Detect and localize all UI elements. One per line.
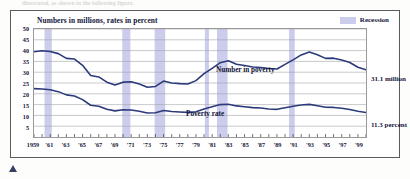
series-line-number-in-poverty [34, 51, 366, 88]
x-tick-label: '83 [225, 141, 233, 148]
plot-area [33, 28, 367, 138]
x-tick-label: 1959 [27, 141, 39, 148]
end-value-poverty-rate: 11.3 percent [371, 121, 407, 129]
x-tick-label: '63 [62, 141, 70, 148]
legend-item-recession: Recession [360, 16, 389, 24]
y-tick-label: 45 [23, 36, 29, 43]
y-tick-label: 30 [23, 69, 29, 76]
chart-legend: Recession [340, 16, 389, 24]
chart-page: illustrated, as shown in the following f… [0, 0, 410, 179]
y-tick-label: 40 [23, 47, 29, 54]
x-tick-label: '75 [159, 141, 167, 148]
recession-swatch-icon [340, 17, 356, 24]
chart-title: Numbers in millions, rates in percent [37, 16, 158, 25]
y-tick-label: 20 [23, 91, 29, 98]
y-axis-labels: 5101520253035404550 [11, 28, 31, 138]
x-tick-label: '89 [273, 141, 281, 148]
page-marker-triangle-icon [9, 165, 17, 172]
x-tick-label: '97 [339, 141, 347, 148]
x-tick-label: '99 [355, 141, 363, 148]
y-tick-label: 50 [23, 25, 29, 32]
end-value-number-in-poverty: 31.1 million [371, 75, 406, 83]
x-tick-label: '67 [94, 141, 102, 148]
x-tick-label: '85 [241, 141, 249, 148]
x-tick-label: '65 [78, 141, 86, 148]
chart-frame: Numbers in millions, rates in percent Re… [10, 10, 400, 158]
x-tick-label: '69 [110, 141, 118, 148]
y-tick-label: 25 [23, 80, 29, 87]
x-tick-label: '87 [257, 141, 265, 148]
x-tick-label: '61 [45, 141, 53, 148]
x-tick-label: '81 [208, 141, 216, 148]
x-tick-label: '91 [290, 141, 298, 148]
chart-svg [34, 29, 366, 137]
x-tick-label: '77 [176, 141, 184, 148]
x-tick-label: '73 [143, 141, 151, 148]
y-tick-label: 35 [23, 58, 29, 65]
x-tick-label: '95 [322, 141, 330, 148]
series-label-poverty-rate: Poverty rate [186, 110, 224, 118]
y-tick-label: 15 [23, 102, 29, 109]
y-tick-label: 5 [26, 124, 29, 131]
x-axis-labels: 1959'61'63'65'67'69'71'73'75'77'79'81'83… [33, 141, 367, 153]
page-caption: illustrated, as shown in the following f… [22, 0, 222, 7]
y-tick-label: 10 [23, 113, 29, 120]
series-label-number-in-poverty: Number in poverty [216, 66, 275, 74]
x-tick-label: '79 [192, 141, 200, 148]
x-tick-label: '71 [127, 141, 135, 148]
x-tick-label: '93 [306, 141, 314, 148]
